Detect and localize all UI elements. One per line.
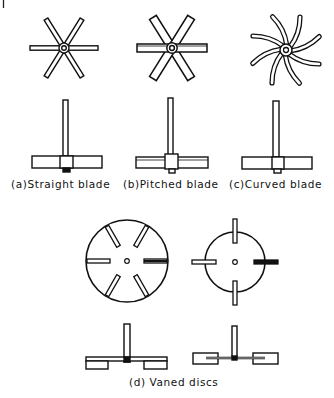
caption-pitched-blade: (b)Pitched blade <box>123 178 219 190</box>
vaned-disc-large-top-view <box>86 220 168 302</box>
curved-blade-side-view <box>242 101 312 173</box>
vaned-disc-large-side-view <box>86 324 167 369</box>
curved-blade-top-view <box>253 17 319 83</box>
caption-curved-blade: (c)Curved blade <box>229 178 322 190</box>
vaned-disc-small-top-view <box>192 219 278 305</box>
caption-vaned-discs: (d) Vaned discs <box>129 376 218 388</box>
pitched-blade-top-view <box>137 15 207 80</box>
pitched-blade-side-view <box>136 98 208 173</box>
straight-blade-top-view <box>30 18 98 78</box>
straight-blade-side-view <box>32 100 102 172</box>
caption-straight-blade: (a)Straight blade <box>11 178 110 190</box>
vaned-disc-small-side-view <box>193 326 278 364</box>
impeller-diagram <box>0 0 334 398</box>
